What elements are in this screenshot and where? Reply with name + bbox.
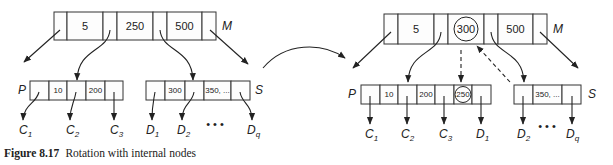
node-m-before: 5 250 500 M	[54, 12, 232, 40]
key: 5	[413, 23, 419, 35]
node-label: P	[348, 87, 356, 101]
key: 10	[54, 86, 63, 95]
child-label: C1	[19, 123, 32, 139]
node-label: S	[255, 83, 263, 97]
child-label: Dq	[566, 127, 580, 143]
node-label: S	[588, 87, 596, 101]
key: 350, ...	[535, 90, 559, 99]
node-p-before: 10 200 P	[18, 81, 123, 100]
key: 350, ...	[205, 86, 229, 95]
key: 300	[168, 86, 182, 95]
child-label: C1	[365, 127, 378, 143]
key: 500	[175, 20, 193, 32]
figure-number: Figure 8.17	[4, 147, 59, 159]
figure-caption: Figure 8.17Rotation with internal nodes	[4, 147, 196, 159]
figure-title: Rotation with internal nodes	[65, 147, 196, 159]
ellipsis: • • •	[538, 120, 556, 132]
child-label: C3	[439, 127, 453, 143]
node-s-before: 300 350, ... S	[146, 81, 263, 100]
node-label: M	[222, 19, 232, 33]
key-circled: 250	[456, 90, 470, 99]
ellipsis: • • •	[206, 118, 224, 130]
key: 10	[385, 90, 394, 99]
child-label: D1	[146, 123, 159, 139]
key-circled: 300	[457, 23, 475, 35]
key: 5	[82, 20, 88, 32]
key: 500	[506, 23, 524, 35]
node-s-after: 350, ... S	[514, 85, 596, 104]
key: 200	[419, 90, 433, 99]
child-label: C2	[401, 127, 415, 143]
key: 250	[126, 20, 144, 32]
child-label: Dq	[247, 123, 261, 139]
child-label: D2	[177, 123, 191, 139]
child-label: C2	[66, 123, 80, 139]
key: 200	[89, 86, 103, 95]
transition-arrow	[263, 47, 345, 68]
child-label: D1	[476, 127, 489, 143]
rotation-diagram: 5 250 500 M 10 200 P C1 C2 C3	[0, 0, 613, 165]
before-tree: 5 250 500 M 10 200 P C1 C2 C3	[18, 12, 263, 139]
node-label: M	[553, 22, 563, 36]
child-label: D2	[517, 127, 531, 143]
child-label: C3	[110, 123, 124, 139]
node-m-after: 5 300 500 M	[384, 14, 563, 44]
after-tree: 5 300 500 M 10 200 250 P C1	[348, 14, 596, 143]
node-label: P	[18, 83, 26, 97]
